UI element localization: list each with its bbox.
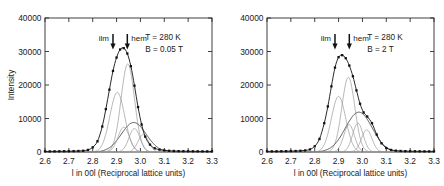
x-tick-label: 2.9	[333, 156, 345, 166]
y-tick-label: 40000	[240, 13, 264, 23]
x-tick-label: 2.6	[39, 156, 51, 166]
data-point	[404, 150, 406, 152]
data-point	[119, 48, 121, 50]
data-point	[137, 106, 139, 108]
data-point	[348, 64, 350, 66]
x-tick-label: 2.6	[261, 156, 273, 166]
data-point	[376, 133, 378, 135]
data-point	[130, 65, 132, 67]
data-point	[149, 143, 151, 145]
data-point	[371, 122, 373, 124]
data-point	[201, 150, 203, 152]
data-point	[423, 150, 425, 152]
data-point	[87, 149, 89, 151]
y-tick-label: 0	[37, 147, 42, 157]
data-point	[58, 150, 60, 152]
component-curve-broad-sub-c	[45, 135, 212, 152]
data-point	[123, 47, 125, 49]
component-curve-broad-envelope	[267, 112, 434, 152]
data-point	[304, 149, 306, 151]
component-curve-ilm-sharp-component	[45, 92, 212, 152]
annotation-field: B = 0.05 T	[145, 45, 183, 54]
data-point	[266, 150, 268, 152]
data-point	[108, 89, 110, 91]
data-point	[197, 150, 199, 152]
data-point	[112, 70, 114, 72]
data-point	[63, 150, 65, 152]
arrow-head-ilm	[332, 44, 337, 50]
plot-frame	[267, 18, 434, 152]
data-point	[428, 150, 430, 152]
arrow-head-hem	[125, 44, 130, 50]
x-axis-title: l in 00l (Reciprocal lattice units)	[72, 169, 186, 178]
data-point	[154, 147, 156, 149]
y-tick-label: 10000	[18, 114, 42, 124]
data-point	[294, 150, 296, 152]
chart-panel-right: 2.62.72.82.93.03.13.23.30100002000030000…	[222, 0, 444, 186]
data-point	[327, 105, 329, 107]
y-tick-label: 20000	[18, 80, 42, 90]
peak-label-ilm: ilm	[321, 34, 332, 43]
x-tick-label: 3.1	[158, 156, 170, 166]
data-point	[290, 150, 292, 152]
data-point	[419, 150, 421, 152]
y-tick-label: 10000	[240, 114, 264, 124]
data-point	[362, 111, 364, 113]
data-point	[309, 148, 311, 150]
y-tick-label: 30000	[18, 47, 42, 57]
figure-root: 2.62.72.82.93.03.13.23.30100002000030000…	[0, 0, 444, 186]
data-point	[144, 135, 146, 137]
x-tick-label: 2.8	[309, 156, 321, 166]
data-point	[337, 56, 339, 58]
data-point	[44, 150, 46, 152]
data-point	[92, 146, 94, 148]
data-point	[133, 85, 135, 87]
x-tick-label: 2.7	[285, 156, 297, 166]
data-point	[126, 52, 128, 54]
x-tick-label: 3.0	[357, 156, 369, 166]
data-point	[345, 57, 347, 59]
y-tick-label: 0	[259, 147, 264, 157]
y-tick-label: 30000	[240, 47, 264, 57]
data-point	[82, 150, 84, 152]
x-tick-label: 3.1	[380, 156, 392, 166]
data-point	[414, 150, 416, 152]
data-point	[352, 75, 354, 77]
data-point	[211, 150, 213, 152]
component-curve-broad-envelope	[45, 123, 212, 152]
data-point	[323, 122, 325, 124]
data-point	[385, 147, 387, 149]
data-point	[366, 115, 368, 117]
data-point	[280, 150, 282, 152]
data-point	[275, 150, 277, 152]
data-point	[173, 150, 175, 152]
data-point	[53, 150, 55, 152]
data-point	[192, 150, 194, 152]
data-point	[355, 89, 357, 91]
x-tick-label: 3.2	[182, 156, 194, 166]
y-tick-label: 40000	[18, 13, 42, 23]
data-point	[158, 149, 160, 151]
x-tick-label: 2.9	[111, 156, 123, 166]
data-point	[330, 85, 332, 87]
data-point	[299, 150, 301, 152]
data-point	[168, 150, 170, 152]
x-tick-label: 3.2	[404, 156, 416, 166]
data-point	[163, 149, 165, 151]
annotation-temperature: T = 280 K	[367, 33, 403, 42]
annotation-field: B = 2 T	[367, 45, 393, 54]
data-point	[101, 125, 103, 127]
data-point	[341, 54, 343, 56]
x-tick-label: 2.8	[87, 156, 99, 166]
data-point	[399, 150, 401, 152]
arrow-head-hem	[347, 44, 352, 50]
data-point	[390, 149, 392, 151]
data-point	[206, 150, 208, 152]
data-point	[105, 108, 107, 110]
data-point	[271, 150, 273, 152]
data-point	[380, 142, 382, 144]
data-point	[115, 56, 117, 58]
data-point	[182, 150, 184, 152]
data-point	[334, 66, 336, 68]
data-point	[177, 150, 179, 152]
